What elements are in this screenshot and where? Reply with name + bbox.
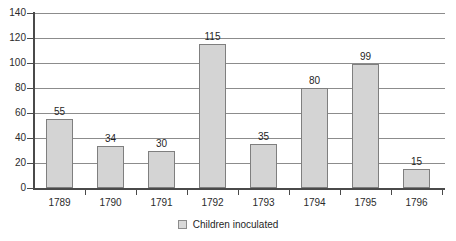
y-tick-label: 60 (0, 108, 26, 118)
y-tick-mark (27, 113, 34, 114)
bar-slot (289, 13, 340, 188)
y-tick-label: 40 (0, 133, 26, 143)
bar-value-label: 30 (136, 138, 187, 149)
y-tick-label: 100 (0, 58, 26, 68)
x-tick-label: 1791 (136, 197, 187, 208)
bar (403, 169, 430, 188)
x-tick-mark (136, 190, 137, 195)
legend-label: Children inoculated (193, 219, 279, 230)
bar-slot (238, 13, 289, 188)
bar-chart: 020406080100120140 178917901791179217931… (0, 0, 456, 241)
bar (97, 146, 124, 189)
legend-swatch-icon (178, 220, 187, 229)
bar-slot (85, 13, 136, 188)
bar-value-label: 15 (391, 156, 442, 167)
x-tick-label: 1796 (391, 197, 442, 208)
x-tick-mark (340, 190, 341, 195)
bar-slot (340, 13, 391, 188)
y-tick-mark (27, 38, 34, 39)
bar-value-label: 99 (340, 51, 391, 62)
x-tick-mark (187, 190, 188, 195)
x-axis-line (33, 188, 445, 190)
bar-value-label: 34 (85, 133, 136, 144)
bar-value-label: 55 (34, 106, 85, 117)
y-tick-label: 20 (0, 158, 26, 168)
x-tick-mark (289, 190, 290, 195)
y-tick-label: 80 (0, 83, 26, 93)
x-tick-label: 1793 (238, 197, 289, 208)
y-tick-mark (27, 163, 34, 164)
bar-value-label: 115 (187, 31, 238, 42)
x-tick-mark (442, 190, 443, 195)
bar (148, 151, 175, 189)
y-tick-mark (27, 188, 34, 189)
bar-value-label: 35 (238, 131, 289, 142)
x-tick-label: 1795 (340, 197, 391, 208)
bar (199, 44, 226, 188)
y-tick-label: 120 (0, 33, 26, 43)
bar-slot (34, 13, 85, 188)
bar (250, 144, 277, 188)
x-tick-label: 1792 (187, 197, 238, 208)
y-axis-tick-labels: 020406080100120140 (0, 0, 26, 241)
x-tick-label: 1789 (34, 197, 85, 208)
y-tick-label: 0 (0, 183, 26, 193)
x-tick-mark (85, 190, 86, 195)
x-tick-label: 1794 (289, 197, 340, 208)
bar-slot (136, 13, 187, 188)
plot-area (34, 13, 445, 188)
x-tick-label: 1790 (85, 197, 136, 208)
legend: Children inoculated (0, 219, 456, 230)
x-tick-mark (391, 190, 392, 195)
y-tick-mark (27, 63, 34, 64)
y-tick-label: 140 (0, 8, 26, 18)
bar (352, 64, 379, 188)
y-tick-mark (27, 88, 34, 89)
bar (301, 88, 328, 188)
x-tick-mark (238, 190, 239, 195)
y-tick-mark (27, 13, 34, 14)
bar-value-label: 80 (289, 75, 340, 86)
y-tick-mark (27, 138, 34, 139)
bar (46, 119, 73, 188)
